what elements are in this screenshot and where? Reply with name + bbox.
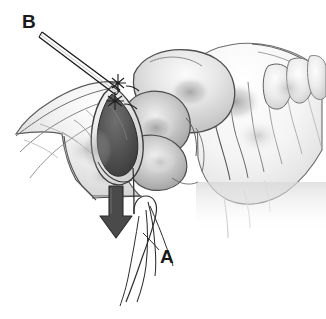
surgical-illustration-figure: B A	[0, 0, 326, 319]
figure-label-a: A	[160, 247, 174, 266]
figure-label-b: B	[22, 12, 36, 31]
illustration-canvas	[0, 0, 326, 319]
